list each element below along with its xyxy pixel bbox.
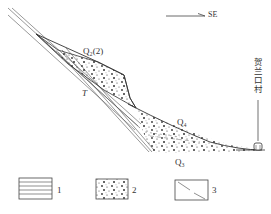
direction-label: SE	[208, 11, 217, 19]
village-icon	[254, 100, 262, 150]
q3-q4-deposit	[136, 108, 262, 153]
geological-cross-section	[0, 0, 271, 214]
q4-label: Q₄	[177, 118, 187, 127]
t-label: T	[82, 89, 87, 98]
legend-label-1: 1	[57, 186, 62, 195]
village-label: 贺兰口村	[253, 58, 263, 94]
legend-label-2: 2	[132, 186, 137, 195]
legend-label-3: 3	[212, 186, 217, 195]
legend-swatch-1	[19, 178, 52, 199]
q2-label: Q₂(2)	[83, 47, 103, 56]
legend-swatch-2	[96, 179, 128, 199]
q3-label: Q₃	[175, 158, 185, 167]
direction-arrow-icon	[166, 14, 205, 17]
bedrock-strata	[8, 8, 154, 152]
legend-swatch-3	[175, 180, 208, 200]
